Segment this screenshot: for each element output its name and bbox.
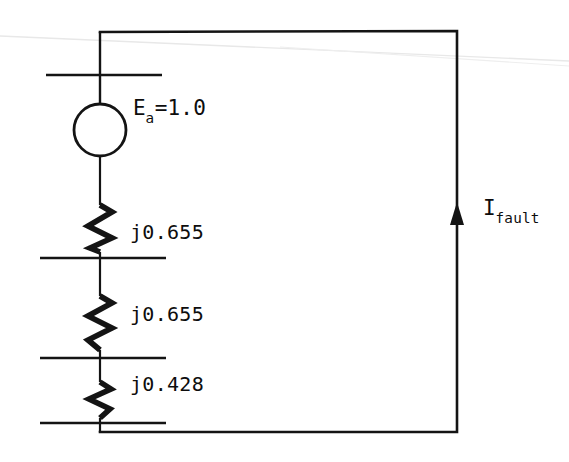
fault-current-subscript: fault [496, 210, 540, 226]
source-voltage-subscript: a [146, 110, 155, 126]
scan-artifact-line-lower [280, 47, 569, 66]
impedance-symbol-z3 [89, 382, 111, 418]
fault-current-arrowhead [450, 202, 464, 225]
impedance-label-z2: j0.655 [130, 304, 204, 324]
impedance-symbol-z1 [88, 205, 112, 252]
fault-current-symbol: I [483, 196, 496, 220]
impedance-label-z3: j0.428 [130, 374, 204, 394]
source-voltage-value: =1.0 [155, 96, 206, 120]
source-voltage-label: Ea=1.0 [133, 98, 206, 122]
source-voltage-symbol: E [133, 96, 146, 120]
scan-artifact-line [0, 36, 569, 61]
impedance-symbol-z2 [88, 296, 112, 350]
voltage-source-symbol [74, 104, 126, 156]
circuit-schematic [0, 0, 569, 462]
circuit-diagram-canvas: Ea=1.0 j0.655 j0.655 j0.428 Ifault [0, 0, 569, 462]
fault-current-label: Ifault [483, 198, 540, 222]
impedance-label-z1: j0.655 [130, 222, 204, 242]
